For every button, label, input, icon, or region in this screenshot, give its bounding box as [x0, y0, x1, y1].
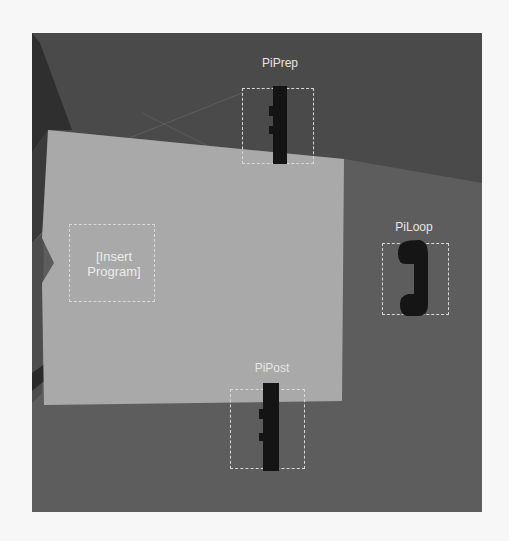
program-line-1: [Insert: [87, 249, 140, 264]
phone-handset-icon[interactable]: [398, 240, 430, 316]
slot-label-piprep: PiPrep: [262, 56, 298, 70]
program-line-2: Program]: [87, 264, 140, 279]
slot-label-piloop: PiLoop: [395, 220, 432, 234]
phone-handset-icon[interactable]: [259, 383, 281, 471]
insert-program-placeholder: [Insert Program]: [87, 249, 140, 279]
phone-handset-icon[interactable]: [267, 86, 291, 164]
game-scene-viewport: [Insert Program] PiPrep PiLoop PiPost: [32, 33, 482, 512]
slot-label-pipost: PiPost: [255, 361, 290, 375]
